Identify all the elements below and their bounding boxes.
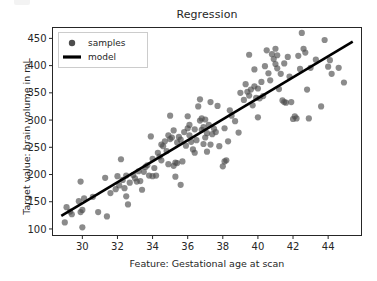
scatter-point bbox=[213, 129, 219, 135]
scatter-point bbox=[95, 209, 101, 215]
scatter-point bbox=[151, 165, 157, 171]
scatter-point bbox=[178, 182, 184, 188]
scatter-point bbox=[237, 90, 243, 96]
scatter-point bbox=[246, 52, 252, 58]
scatter-point bbox=[127, 180, 133, 186]
legend-marker-samples bbox=[69, 40, 75, 46]
scatter-point bbox=[137, 178, 143, 184]
scatter-point bbox=[278, 71, 284, 77]
scatter-point bbox=[272, 46, 278, 52]
scatter-point bbox=[192, 150, 198, 156]
scatter-point bbox=[325, 64, 331, 70]
scatter-point bbox=[114, 173, 120, 179]
scatter-point bbox=[295, 53, 301, 59]
scatter-point bbox=[192, 126, 198, 132]
legend-label-samples: samples bbox=[88, 38, 126, 48]
scatter-point bbox=[304, 86, 310, 92]
scatter-point bbox=[207, 99, 213, 105]
scatter-point bbox=[255, 114, 261, 120]
scatter-point bbox=[171, 127, 177, 133]
scatter-point bbox=[251, 66, 257, 72]
scatter-point bbox=[167, 113, 173, 119]
regression-figure: Regression Target value: brain volume in… bbox=[0, 0, 377, 281]
scatter-point bbox=[172, 174, 178, 180]
scatter-point bbox=[258, 79, 264, 85]
scatter-point bbox=[179, 158, 185, 164]
y-tick-label-300: 300 bbox=[27, 115, 46, 126]
scatter-point bbox=[102, 175, 108, 181]
scatter-point bbox=[225, 138, 231, 144]
scatter-point bbox=[214, 103, 220, 109]
scatter-point bbox=[79, 207, 85, 213]
scatter-point bbox=[185, 113, 191, 119]
scatter-point bbox=[241, 97, 247, 103]
scatter-point bbox=[165, 161, 171, 167]
scatter-point bbox=[243, 81, 249, 87]
scatter-point bbox=[193, 137, 199, 143]
y-axis-ticks: 100150200250300350400450 bbox=[27, 33, 52, 235]
x-tick-label-32: 32 bbox=[111, 241, 124, 252]
scatter-point bbox=[274, 65, 280, 71]
scatter-point bbox=[202, 116, 208, 122]
x-tick-label-34: 34 bbox=[146, 241, 159, 252]
scatter-point bbox=[236, 129, 242, 135]
y-tick-label-400: 400 bbox=[27, 60, 46, 71]
scatter-point bbox=[62, 219, 68, 225]
y-tick-label-150: 150 bbox=[27, 196, 46, 207]
scatter-point bbox=[207, 141, 213, 147]
scatter-point bbox=[322, 37, 328, 43]
scatter-point bbox=[200, 141, 206, 147]
scatter-point bbox=[149, 173, 155, 179]
scatter-point bbox=[197, 96, 203, 102]
scatter-point bbox=[246, 92, 252, 98]
scatter-point bbox=[293, 115, 299, 121]
scatter-point bbox=[104, 213, 110, 219]
y-tick-label-450: 450 bbox=[27, 33, 46, 44]
x-tick-label-38: 38 bbox=[216, 241, 229, 252]
scatter-point bbox=[255, 85, 261, 91]
scatter-point bbox=[121, 185, 127, 191]
scatter-point bbox=[169, 134, 175, 140]
scatter-point bbox=[204, 149, 210, 155]
scatter-point bbox=[262, 63, 268, 69]
scatter-point bbox=[223, 157, 229, 163]
y-tick-label-100: 100 bbox=[27, 224, 46, 235]
y-tick-label-200: 200 bbox=[27, 169, 46, 180]
scatter-point bbox=[306, 115, 312, 121]
scatter-point bbox=[285, 54, 291, 60]
scatter-point bbox=[336, 65, 342, 71]
scatter-point bbox=[195, 103, 201, 109]
scatter-point bbox=[162, 138, 168, 144]
plot-canvas: 100150200250300350400450 303234363840424… bbox=[0, 0, 377, 281]
scatter-point bbox=[281, 60, 287, 66]
scatter-point bbox=[107, 190, 113, 196]
y-tick-label-350: 350 bbox=[27, 87, 46, 98]
scatter-point bbox=[288, 99, 294, 105]
scatter-point bbox=[139, 187, 145, 193]
scatter-point bbox=[125, 201, 131, 207]
scatter-point bbox=[118, 156, 124, 162]
y-tick-label-250: 250 bbox=[27, 142, 46, 153]
x-tick-label-40: 40 bbox=[252, 241, 265, 252]
scatter-point bbox=[302, 49, 308, 55]
scatter-point bbox=[216, 143, 222, 149]
x-axis-ticks: 3032343638404244 bbox=[76, 236, 335, 252]
x-tick-label-42: 42 bbox=[287, 241, 300, 252]
scatter-point bbox=[267, 77, 273, 83]
scatter-point bbox=[299, 30, 305, 36]
scatter-point bbox=[123, 193, 129, 199]
scatter-point bbox=[329, 71, 335, 77]
x-tick-label-30: 30 bbox=[76, 241, 89, 252]
scatter-point bbox=[148, 133, 154, 139]
scatter-point bbox=[186, 122, 192, 128]
scatter-point bbox=[264, 47, 270, 53]
scatter-point bbox=[274, 52, 280, 58]
chart-legend: samples model bbox=[59, 33, 148, 68]
scatter-point bbox=[283, 100, 289, 106]
scatter-point bbox=[79, 224, 85, 230]
scatter-point bbox=[341, 79, 347, 85]
scatter-point bbox=[174, 160, 180, 166]
scatter-point bbox=[77, 178, 83, 184]
legend-label-model: model bbox=[88, 52, 116, 62]
scatter-point bbox=[232, 118, 238, 124]
